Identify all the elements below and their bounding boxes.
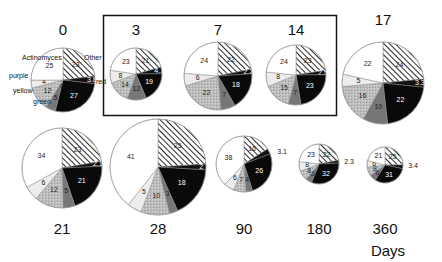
pie-day-360: 253.43168621360 xyxy=(367,147,418,237)
slice-value-green: 10 xyxy=(374,103,382,110)
slice-value-orange: 31 xyxy=(385,171,393,178)
legend-orange: orange xyxy=(60,82,82,90)
slice-value-green: 5 xyxy=(64,187,68,194)
slice-value-red: 3.4 xyxy=(408,162,418,169)
slice-value-actinomyces: 25 xyxy=(46,62,54,69)
slice-value-other: 16 xyxy=(248,145,256,152)
slice-orange xyxy=(383,83,424,124)
slice-value-yellow: 10 xyxy=(152,192,160,199)
legend-green: green xyxy=(33,98,51,106)
slice-value-purple: 6 xyxy=(196,74,200,81)
day-label-0: 0 xyxy=(59,21,67,38)
slice-value-other: 22 xyxy=(227,56,235,63)
slice-value-other: 25 xyxy=(389,153,397,160)
slice-value-other: 23 xyxy=(72,61,80,68)
pie-day-7: 222.2187226247 xyxy=(184,21,253,110)
slice-value-green: 7 xyxy=(293,89,297,96)
slice-value-red: 3.1 xyxy=(277,148,287,155)
pie-day-3: 214.11912148233 xyxy=(110,21,164,100)
slice-value-yellow: 15 xyxy=(280,84,288,91)
slice-value-other: 23 xyxy=(74,146,82,153)
slice-value-orange: 18 xyxy=(178,179,186,186)
x-axis-label: Days xyxy=(371,242,405,259)
slice-value-yellow: 12 xyxy=(50,186,58,193)
slice-value-yellow: 12 xyxy=(44,87,52,94)
slice-value-actinomyces: 23 xyxy=(122,58,130,65)
slice-value-actinomyces: 21 xyxy=(375,152,383,159)
slice-value-red: 4.1 xyxy=(154,67,164,74)
legend-red: red xyxy=(96,78,106,85)
day-label-21: 21 xyxy=(54,220,71,237)
slice-value-other: 22 xyxy=(323,151,331,158)
slice-value-orange: 22 xyxy=(397,96,405,103)
slice-value-actinomyces: 41 xyxy=(127,153,135,160)
slice-value-other: 24 xyxy=(396,61,404,68)
slice-value-red: 2.5 xyxy=(318,69,328,76)
slice-value-purple: 5 xyxy=(142,188,146,195)
slice-value-yellow: 22 xyxy=(203,89,211,96)
day-label-17: 17 xyxy=(375,11,392,28)
pie-day-180: 222.33258823180 xyxy=(299,144,354,237)
legend-yellow: yellow xyxy=(13,87,33,95)
day-label-7: 7 xyxy=(214,21,222,38)
day-label-180: 180 xyxy=(306,220,331,237)
legend-purple: purple xyxy=(9,72,29,80)
slice-value-actinomyces: 22 xyxy=(364,60,372,67)
slice-value-other: 21 xyxy=(142,57,150,64)
day-label-28: 28 xyxy=(150,220,167,237)
slice-value-yellow: 14 xyxy=(121,81,129,88)
day-label-14: 14 xyxy=(288,21,305,38)
pie-day-21: 232.12151263421 xyxy=(22,128,103,237)
slice-value-actinomyces: 24 xyxy=(280,58,288,65)
legend-actinomyces: Actinomyces xyxy=(22,54,62,62)
slice-value-orange: 23 xyxy=(306,82,314,89)
slice-value-green: 4 xyxy=(245,176,249,183)
pies: 233.8275124250214.11912148233222.2187226… xyxy=(22,11,425,237)
pie-day-14: 232.52371582414 xyxy=(266,21,328,105)
slice-value-actinomyces: 38 xyxy=(225,154,233,161)
slice-value-purple: 8 xyxy=(276,73,280,80)
slice-value-actinomyces: 23 xyxy=(307,151,315,158)
slice-value-other: 25 xyxy=(174,142,182,149)
slice-value-orange: 32 xyxy=(322,170,330,177)
slice-value-green: 7 xyxy=(222,91,226,98)
slice-value-red: 3.3 xyxy=(415,79,425,86)
slice-value-red: 2.3 xyxy=(344,158,354,165)
slice-value-red: 2 xyxy=(199,163,203,170)
pie-day-28: 2521831054128 xyxy=(110,119,206,237)
slice-value-green: 12 xyxy=(133,85,141,92)
pie-day-90: 163.1264763890 xyxy=(216,136,287,237)
slice-value-green: 3 xyxy=(165,190,169,197)
pie-chart-grid: 233.8275124250214.11912148233222.2187226… xyxy=(0,0,442,262)
slice-value-yellow: 16 xyxy=(359,92,367,99)
slice-value-green: 5 xyxy=(54,94,58,101)
slice-value-purple: 6 xyxy=(41,179,45,186)
slice-value-yellow: 7 xyxy=(239,176,243,183)
day-label-90: 90 xyxy=(236,220,253,237)
slice-value-other: 23 xyxy=(304,57,312,64)
slice-value-orange: 21 xyxy=(78,177,86,184)
pie-day-17: 243.322101652217 xyxy=(342,11,425,124)
day-label-360: 360 xyxy=(372,220,397,237)
slice-value-purple: 5 xyxy=(357,77,361,84)
slice-value-actinomyces: 34 xyxy=(38,152,46,159)
slice-value-actinomyces: 24 xyxy=(200,57,208,64)
legend-other: Other xyxy=(84,54,102,61)
slice-other xyxy=(158,119,206,167)
slice-value-orange: 26 xyxy=(255,167,263,174)
slice-value-orange: 18 xyxy=(232,81,240,88)
slice-value-purple: 8 xyxy=(119,72,123,79)
day-label-3: 3 xyxy=(132,21,140,38)
slice-value-orange: 19 xyxy=(145,78,153,85)
slice-value-orange: 27 xyxy=(70,92,78,99)
